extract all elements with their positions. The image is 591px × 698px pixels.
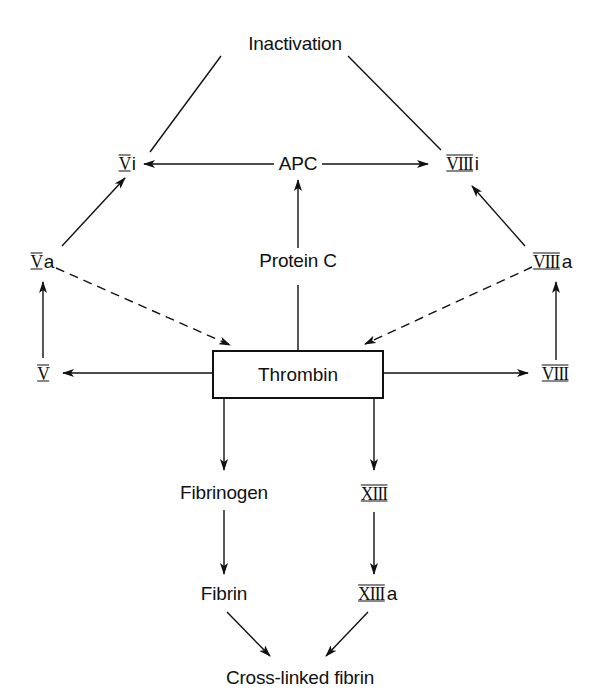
node-factor-xiiia: XIIIa: [357, 584, 397, 603]
node-factor-xiii: XIII: [360, 484, 389, 503]
edge-xiiia-crosslinked: [326, 612, 368, 656]
edge-va-thrombin: [56, 268, 230, 345]
edges-layer: [0, 0, 591, 698]
roman-numeral: VIII: [533, 253, 559, 270]
node-factor-viiii: VIIIi: [445, 154, 479, 173]
roman-numeral: V: [37, 365, 49, 382]
roman-numeral: VIII: [542, 365, 568, 382]
node-apc: APC: [279, 154, 317, 173]
node-crosslinked-fibrin: Cross-linked fibrin: [226, 668, 374, 687]
node-factor-vi: Vi: [118, 154, 136, 173]
roman-numeral: XIII: [361, 485, 387, 502]
edge-viiia-thrombin: [365, 267, 532, 344]
node-protein-c: Protein C: [259, 251, 336, 270]
edge-viiia-viiii: [472, 186, 525, 246]
edge-viiii-inactivation: [348, 56, 441, 150]
node-factor-v: V: [37, 364, 50, 383]
roman-numeral: XIII: [358, 585, 384, 602]
thrombin-label: Thrombin: [258, 364, 338, 386]
roman-numeral: V: [30, 253, 42, 270]
edge-va-vi: [62, 178, 125, 246]
node-factor-va: Va: [30, 252, 54, 271]
node-factor-viii: VIII: [541, 364, 570, 383]
node-thrombin-box: Thrombin: [212, 350, 384, 399]
node-fibrin: Fibrin: [201, 584, 247, 603]
roman-numeral: VIII: [446, 155, 472, 172]
node-inactivation: Inactivation: [248, 34, 342, 53]
node-factor-viiia: VIIIa: [532, 252, 572, 271]
roman-numeral: V: [119, 155, 131, 172]
edge-fibrin-crosslinked: [227, 612, 270, 656]
edge-vi-inactivation: [150, 56, 221, 152]
node-fibrinogen: Fibrinogen: [180, 483, 268, 502]
